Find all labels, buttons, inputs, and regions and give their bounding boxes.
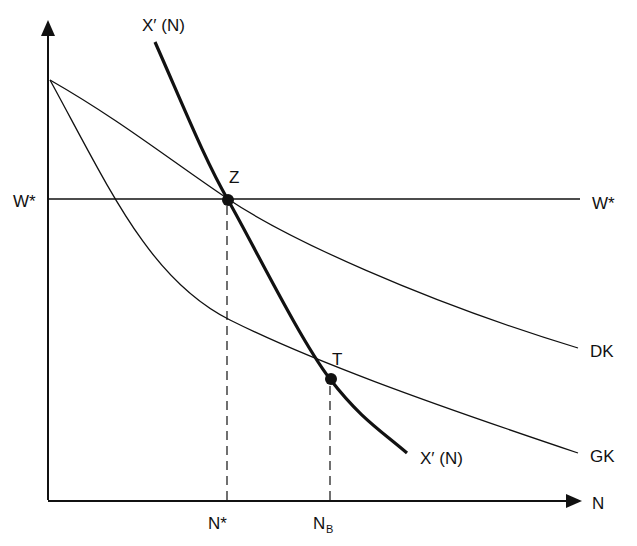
point-z-marker [222, 194, 234, 206]
x-axis [48, 494, 582, 508]
y-axis [41, 20, 55, 500]
svg-text:B: B [326, 523, 333, 535]
dk-curve [50, 80, 578, 348]
y-axis-arrow-icon [41, 20, 55, 36]
w-star-right-label: W* [592, 194, 615, 213]
gk-label: GK [590, 447, 615, 466]
diagram-canvas: X′ (N) Z W* W* DK T GK X′ (N) N N* N B [0, 0, 637, 546]
x-axis-label: N [592, 494, 604, 513]
svg-text:N: N [313, 514, 325, 533]
dk-label: DK [590, 342, 614, 361]
n-star-tick-label: N* [208, 514, 227, 533]
x-prime-bottom-label: X′ (N) [420, 449, 463, 468]
point-z-label: Z [229, 168, 239, 187]
point-t-marker [325, 373, 337, 385]
gk-curve [50, 80, 578, 453]
w-star-left-label: W* [13, 192, 36, 211]
x-axis-arrow-icon [566, 494, 582, 508]
x-prime-top-label: X′ (N) [142, 16, 185, 35]
n-b-tick-label: N B [313, 514, 333, 535]
x-prime-curve [155, 42, 407, 453]
point-t-label: T [332, 350, 342, 369]
